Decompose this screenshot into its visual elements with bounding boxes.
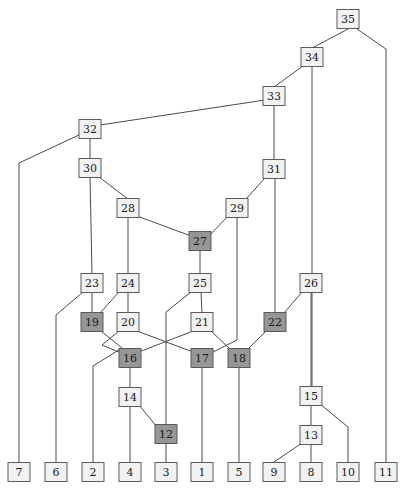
node-11[interactable]: 11: [375, 463, 397, 482]
node-label-3: 3: [163, 466, 170, 479]
node-18[interactable]: 18: [228, 349, 250, 368]
node-label-7: 7: [16, 466, 23, 479]
edge-32-7: [19, 134, 81, 462]
node-26[interactable]: 26: [300, 274, 322, 293]
node-17[interactable]: 17: [191, 349, 213, 368]
edge-34-33: [274, 66, 303, 87]
edge-35-34: [312, 29, 348, 48]
edge-15-10: [320, 404, 348, 462]
node-label-21: 21: [195, 316, 209, 329]
node-16[interactable]: 16: [119, 349, 141, 368]
node-label-8: 8: [308, 466, 315, 479]
edge-23-6: [56, 292, 83, 462]
node-label-15: 15: [304, 390, 318, 403]
node-label-4: 4: [127, 466, 134, 479]
node-label-30: 30: [83, 162, 97, 175]
node-label-6: 6: [53, 466, 60, 479]
node-30[interactable]: 30: [79, 159, 101, 178]
node-29[interactable]: 29: [226, 199, 248, 218]
node-8[interactable]: 8: [300, 463, 322, 482]
node-label-29: 29: [230, 202, 244, 215]
node-31[interactable]: 31: [263, 160, 285, 179]
edge-29-17: [211, 217, 237, 353]
node-label-9: 9: [271, 466, 278, 479]
edge-24-19: [100, 292, 119, 313]
node-label-24: 24: [121, 277, 135, 290]
node-13[interactable]: 13: [300, 426, 322, 445]
edge-21-18: [211, 331, 230, 349]
edge-25-21: [201, 292, 202, 313]
edge-14-12: [139, 405, 157, 427]
edge-35-11: [357, 29, 386, 462]
node-label-25: 25: [193, 277, 207, 290]
node-label-13: 13: [304, 429, 318, 442]
node-label-5: 5: [236, 466, 243, 479]
node-label-32: 32: [83, 123, 97, 136]
node-6[interactable]: 6: [45, 463, 67, 482]
node-3[interactable]: 3: [155, 463, 177, 482]
node-label-10: 10: [341, 466, 355, 479]
edge-29-27: [209, 216, 228, 236]
node-22[interactable]: 22: [264, 313, 286, 332]
node-15[interactable]: 15: [300, 387, 322, 406]
node-35[interactable]: 35: [337, 10, 359, 29]
node-label-17: 17: [195, 352, 209, 365]
node-27[interactable]: 27: [189, 232, 211, 251]
node-1[interactable]: 1: [191, 463, 213, 482]
dag-diagram: 3534333231302928272625242322212019181716…: [0, 0, 408, 493]
edge-22-18: [248, 331, 266, 349]
edge-28-27: [137, 216, 191, 236]
node-label-23: 23: [85, 277, 99, 290]
node-23[interactable]: 23: [81, 274, 103, 293]
node-9[interactable]: 9: [263, 463, 285, 482]
node-7[interactable]: 7: [8, 463, 30, 482]
edge-30-28: [99, 177, 128, 199]
node-24[interactable]: 24: [117, 274, 139, 293]
node-20[interactable]: 20: [117, 313, 139, 332]
edge-19-2: [93, 331, 122, 462]
edge-31-29: [246, 178, 265, 199]
edge-26-22: [284, 292, 302, 313]
node-label-2: 2: [90, 466, 97, 479]
node-33[interactable]: 33: [263, 87, 285, 106]
node-label-26: 26: [304, 277, 318, 290]
node-4[interactable]: 4: [119, 463, 141, 482]
node-32[interactable]: 32: [79, 120, 101, 139]
node-label-28: 28: [121, 202, 135, 215]
node-28[interactable]: 28: [117, 199, 139, 218]
edge-30-23: [90, 177, 92, 274]
node-label-22: 22: [268, 316, 282, 329]
node-label-16: 16: [123, 352, 137, 365]
edge-13-9: [274, 443, 302, 462]
node-12[interactable]: 12: [155, 425, 177, 444]
node-label-14: 14: [123, 391, 137, 404]
node-label-33: 33: [267, 90, 281, 103]
node-14[interactable]: 14: [119, 388, 141, 407]
node-label-35: 35: [341, 13, 355, 26]
node-34[interactable]: 34: [301, 48, 323, 67]
node-label-27: 27: [193, 235, 207, 248]
node-label-18: 18: [232, 352, 246, 365]
node-10[interactable]: 10: [337, 463, 359, 482]
node-25[interactable]: 25: [189, 274, 211, 293]
node-label-34: 34: [305, 51, 319, 64]
node-19[interactable]: 19: [81, 313, 103, 332]
node-label-31: 31: [267, 163, 281, 176]
node-label-1: 1: [199, 466, 206, 479]
node-label-20: 20: [121, 316, 135, 329]
node-label-19: 19: [85, 316, 99, 329]
node-label-12: 12: [159, 428, 173, 441]
node-21[interactable]: 21: [191, 313, 213, 332]
edge-25-12: [166, 292, 191, 425]
edge-33-32: [100, 100, 265, 125]
graph-canvas: 3534333231302928272625242322212019181716…: [0, 0, 408, 493]
node-2[interactable]: 2: [82, 463, 104, 482]
node-label-11: 11: [379, 466, 393, 479]
node-5[interactable]: 5: [228, 463, 250, 482]
